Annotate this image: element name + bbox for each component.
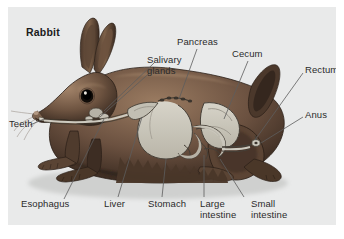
label-large-intestine-line2: intestine — [200, 210, 236, 221]
rabbit-anatomy-illustration — [8, 7, 336, 225]
label-rectum: Rectum — [305, 65, 336, 76]
illustration-plate: Rabbit Salivary glands Pancreas Cecum Re… — [8, 7, 336, 225]
label-cecum: Cecum — [232, 49, 263, 60]
label-pancreas: Pancreas — [177, 37, 218, 48]
label-teeth: Teeth — [9, 119, 33, 130]
label-liver: Liver — [104, 199, 125, 210]
label-salivary-glands-line1: Salivary — [147, 55, 182, 66]
label-salivary-glands-line2: glands — [147, 66, 176, 77]
label-anus: Anus — [305, 110, 327, 121]
anus-organ — [252, 140, 260, 147]
label-stomach: Stomach — [148, 199, 186, 210]
label-small-intestine-line1: Small — [251, 199, 275, 210]
figure-title: Rabbit — [26, 27, 60, 38]
label-large-intestine-line1: Large — [200, 199, 225, 210]
label-esophagus: Esophagus — [21, 199, 69, 210]
figure-container: Rabbit Salivary glands Pancreas Cecum Re… — [0, 0, 344, 239]
label-small-intestine-line2: intestine — [251, 210, 287, 221]
